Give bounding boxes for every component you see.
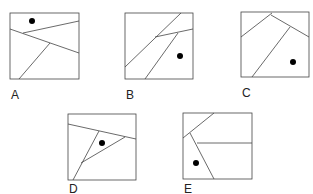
figure-b-square xyxy=(125,13,193,79)
figure-b-label: B xyxy=(126,88,134,102)
figure-d-line xyxy=(73,131,99,180)
figure-d-label: D xyxy=(69,182,78,194)
figure-c xyxy=(241,12,309,77)
figure-a xyxy=(10,13,79,79)
figure-d xyxy=(68,114,136,180)
figure-b xyxy=(125,13,193,79)
figure-a-dot xyxy=(29,18,35,24)
figure-b-line xyxy=(145,33,178,79)
figure-a-label: A xyxy=(11,88,19,102)
figure-panel: A B C D E xyxy=(0,0,313,194)
figure-e-dot xyxy=(193,160,199,166)
figure-c-line xyxy=(241,13,272,37)
figure-a-line xyxy=(19,43,50,79)
figure-e-label: E xyxy=(184,182,192,194)
figure-e-line xyxy=(183,113,214,138)
figure-e xyxy=(183,113,252,179)
figure-b-dot xyxy=(177,53,183,59)
figure-c-label: C xyxy=(242,86,251,100)
figure-c-line xyxy=(252,27,290,77)
figure-e-line xyxy=(190,133,214,179)
figure-c-line xyxy=(271,15,309,37)
figure-d-line xyxy=(68,124,136,139)
figure-d-dot xyxy=(99,140,105,146)
figure-e-square xyxy=(183,113,252,179)
figure-c-dot xyxy=(290,59,296,65)
figure-c-square xyxy=(241,12,309,77)
